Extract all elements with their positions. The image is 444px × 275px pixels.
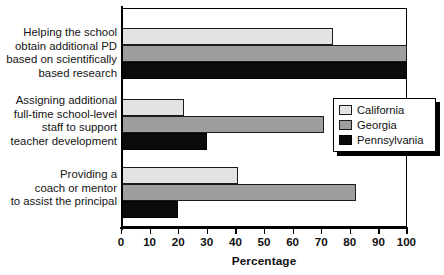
category-label-assigning-staff: Assigning additional full-time school-le… [0,94,117,148]
legend-item-georgia: Georgia [339,118,397,132]
legend-swatch-georgia [339,120,352,130]
bar-pennsylvania-helping-school [121,62,407,79]
bar-california-providing-coach [121,167,238,184]
x-tick-label-10: 10 [143,235,156,248]
legend-swatch-pennsylvania [339,135,352,145]
x-tick-40 [235,228,236,234]
x-tick-0 [121,228,122,234]
x-tick-30 [207,228,208,234]
bar-california-assigning-staff [121,99,184,116]
x-tick-label-60: 60 [286,235,299,248]
legend-item-pennsylvania: Pennsylvania [339,133,424,147]
x-tick-100 [406,228,407,234]
x-tick-60 [293,228,294,234]
bar-georgia-helping-school [121,45,407,62]
legend-label-pennsylvania: Pennsylvania [357,135,424,146]
category-label-providing-coach: Providing a coach or mentor to assist th… [0,168,117,209]
y-axis-line [121,6,123,230]
x-tick-label-80: 80 [343,235,356,248]
bar-pennsylvania-assigning-staff [121,133,207,150]
x-tick-label-20: 20 [172,235,185,248]
x-tick-50 [264,228,265,234]
x-tick-90 [378,228,379,234]
legend-item-california: California [339,103,404,117]
x-tick-label-70: 70 [315,235,328,248]
legend-label-california: California [357,105,404,116]
legend-label-georgia: Georgia [357,120,397,131]
x-tick-70 [321,228,322,234]
x-tick-label-100: 100 [397,235,416,248]
x-tick-label-0: 0 [118,235,124,248]
x-tick-label-40: 40 [229,235,242,248]
x-tick-80 [350,228,351,234]
x-axis-title: Percentage [121,254,407,268]
x-tick-label-90: 90 [372,235,385,248]
category-axis-labels: Helping the school obtain additional PD … [0,0,117,275]
bar-california-helping-school [121,28,333,45]
category-label-helping-school: Helping the school obtain additional PD … [0,26,117,80]
legend-swatch-california [339,105,352,115]
x-tick-20 [178,228,179,234]
x-tick-label-50: 50 [258,235,271,248]
legend: California Georgia Pennsylvania [333,98,436,152]
bar-georgia-assigning-staff [121,116,324,133]
x-tick-10 [150,228,151,234]
x-tick-label-30: 30 [200,235,213,248]
bar-georgia-providing-coach [121,184,356,201]
bar-pennsylvania-providing-coach [121,201,178,218]
horizontal-bar-chart: Helping the school obtain additional PD … [0,0,444,275]
